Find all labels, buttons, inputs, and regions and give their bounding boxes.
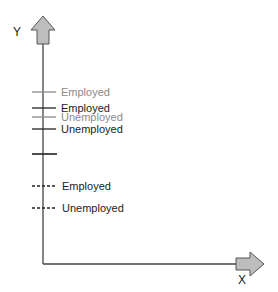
marker-label: Unemployed: [61, 123, 123, 135]
marker-label: Employed: [61, 86, 110, 98]
x-axis-label: X: [238, 273, 246, 287]
axis-diagram: Y X EmployedEmployedUnemployedUnemployed…: [0, 0, 278, 292]
y-axis-label: Y: [13, 25, 21, 39]
marker-group: EmployedEmployedUnemployedUnemployedEmpl…: [32, 86, 124, 214]
y-axis-arrow-icon: [31, 16, 55, 44]
marker-label: Employed: [62, 180, 111, 192]
marker-label: Unemployed: [61, 111, 123, 123]
marker-label: Unemployed: [62, 202, 124, 214]
